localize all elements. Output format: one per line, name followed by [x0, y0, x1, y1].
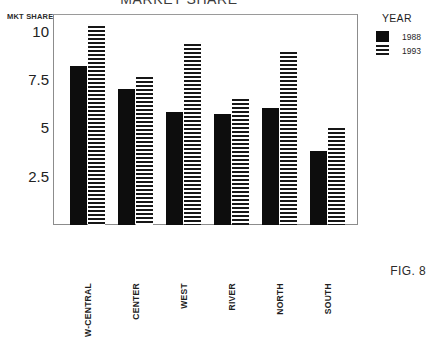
y-tick-10: 10: [32, 23, 49, 40]
y-tick-7_5: 7.5: [28, 71, 49, 88]
legend-title: YEAR: [382, 12, 435, 24]
legend-label-1993: 1993: [402, 46, 421, 56]
x-label-west: WEST: [179, 283, 189, 309]
x-axis: W-CENTRAL CENTER WEST RIVER NORTH SOUTH: [53, 227, 358, 285]
bar-group-south: [310, 14, 346, 225]
y-axis: 10 7.5 5 2.5: [0, 0, 53, 286]
bar-1993-w-central[interactable]: [88, 26, 105, 225]
bars-layer: [53, 14, 358, 225]
y-tick-5: 5: [41, 119, 49, 136]
bar-group-west: [166, 14, 202, 225]
bar-group-center: [118, 14, 154, 225]
x-label-north: NORTH: [275, 283, 285, 315]
legend-entry-1988: 1988: [376, 30, 435, 43]
bar-1993-south[interactable]: [328, 128, 345, 226]
legend-label-1988: 1988: [402, 32, 421, 42]
chart-title: MARKET SHARE: [0, 0, 358, 7]
x-label-center: CENTER: [131, 283, 141, 320]
bar-group-river: [214, 14, 250, 225]
x-label-south: SOUTH: [323, 283, 333, 314]
legend: YEAR 1988 1993: [376, 12, 435, 58]
bar-1988-center[interactable]: [118, 89, 135, 225]
x-label-w-central: W-CENTRAL: [83, 283, 93, 337]
bar-1993-river[interactable]: [232, 99, 249, 225]
bar-1993-center[interactable]: [136, 77, 153, 225]
bar-1988-w-central[interactable]: [70, 66, 87, 225]
figure-caption: FIG. 8: [390, 264, 426, 278]
bar-1993-west[interactable]: [184, 44, 201, 225]
legend-entry-1993: 1993: [376, 44, 435, 57]
bar-1988-west[interactable]: [166, 112, 183, 226]
horizontal-stripe-swatch-icon: [376, 45, 389, 56]
solid-black-swatch-icon: [376, 31, 389, 42]
bar-1993-north[interactable]: [280, 52, 297, 225]
y-tick-2_5: 2.5: [28, 168, 49, 185]
bar-1988-south[interactable]: [310, 151, 327, 225]
bar-1988-river[interactable]: [214, 114, 231, 226]
bar-group-north: [262, 14, 298, 225]
bar-1988-north[interactable]: [262, 108, 279, 225]
bar-group-w-central: [70, 14, 106, 225]
x-label-river: RIVER: [227, 283, 237, 310]
